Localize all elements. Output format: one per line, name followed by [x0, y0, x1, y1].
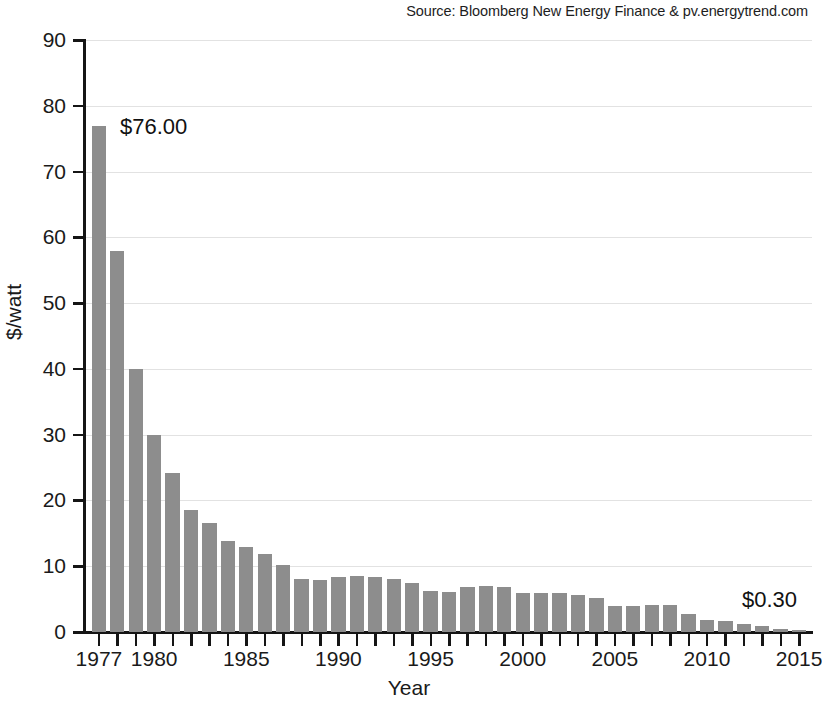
y-axis-tick-label: 0 [6, 621, 66, 642]
x-axis-tick [172, 634, 175, 646]
bar [331, 577, 345, 632]
bar [405, 583, 419, 632]
bar [387, 579, 401, 632]
x-axis-tick [614, 634, 617, 646]
x-axis-tick [319, 634, 322, 646]
x-axis-tick-label: 2015 [776, 648, 822, 669]
bar [552, 593, 566, 632]
bar [626, 606, 640, 632]
x-axis-tick [282, 634, 285, 646]
bar [221, 541, 235, 632]
x-axis-tick [466, 634, 469, 646]
x-axis-tick [688, 634, 691, 646]
y-axis-tick [73, 499, 84, 502]
x-axis-tick-label: 2005 [591, 648, 638, 669]
x-axis-tick-label: 2010 [684, 648, 731, 669]
bar [276, 565, 290, 632]
y-axis-tick [73, 368, 84, 371]
bar [755, 626, 769, 632]
x-axis-tick [761, 634, 764, 646]
y-axis-tick [73, 39, 84, 42]
bar [700, 620, 714, 632]
bar [258, 554, 272, 632]
x-axis-tick [632, 634, 635, 646]
bar [202, 523, 216, 632]
x-axis-tick [706, 634, 709, 646]
x-axis-tick [135, 634, 138, 646]
bar [645, 605, 659, 632]
x-axis-tick [595, 634, 598, 646]
x-axis-tick [227, 634, 230, 646]
first-value-label: $76.00 [120, 116, 187, 138]
bar [165, 473, 179, 632]
y-axis-tick [73, 105, 84, 108]
bar [442, 592, 456, 632]
y-axis-tick [73, 565, 84, 568]
x-axis-tick [98, 634, 101, 646]
x-axis-tick-label: 1990 [315, 648, 362, 669]
y-axis-tick-label: 10 [6, 555, 66, 576]
y-axis-tick-label: 60 [6, 226, 66, 247]
y-axis-tick-label: 20 [6, 489, 66, 510]
x-axis-tick [448, 634, 451, 646]
bar [239, 547, 253, 633]
bar [571, 595, 585, 632]
bar [129, 369, 143, 632]
bar [497, 587, 511, 632]
bar [368, 577, 382, 632]
bar [110, 251, 124, 633]
bar [773, 629, 787, 632]
bars [86, 40, 812, 632]
bar [460, 587, 474, 632]
x-axis-tick [780, 634, 783, 646]
x-axis-tick [411, 634, 414, 646]
x-axis-tick [301, 634, 304, 646]
bar [479, 586, 493, 632]
source-note: Source: Bloomberg New Energy Finance & p… [406, 3, 808, 19]
bar [589, 598, 603, 632]
x-axis-tick [337, 634, 340, 646]
x-axis-tick [190, 634, 193, 646]
bar [534, 593, 548, 632]
x-axis-tick-label: 1995 [407, 648, 454, 669]
x-axis-tick [153, 634, 156, 646]
y-axis-tick-label: 30 [6, 424, 66, 445]
x-axis-tick [540, 634, 543, 646]
y-axis-tick-label: 70 [6, 161, 66, 182]
y-axis-tick [73, 631, 84, 634]
x-axis-tick [374, 634, 377, 646]
x-axis-tick [264, 634, 267, 646]
x-axis-tick [208, 634, 211, 646]
x-axis-tick [356, 634, 359, 646]
bar [792, 630, 806, 632]
x-axis-tick [559, 634, 562, 646]
x-axis-tick-label: 1977 [76, 648, 123, 669]
y-axis-tick-label: 80 [6, 95, 66, 116]
y-axis-title: $/watt [2, 252, 26, 372]
x-axis-tick [651, 634, 654, 646]
x-axis-tick [669, 634, 672, 646]
bar [737, 624, 751, 632]
x-axis-tick-label: 1980 [131, 648, 178, 669]
bar [147, 435, 161, 632]
last-value-label: $0.30 [742, 589, 797, 611]
x-axis-tick [245, 634, 248, 646]
x-axis-tick [430, 634, 433, 646]
y-axis-tick [73, 236, 84, 239]
x-axis-tick [503, 634, 506, 646]
bar [350, 576, 364, 632]
y-axis-tick [73, 434, 84, 437]
x-axis-tick [798, 634, 801, 646]
x-axis-tick [485, 634, 488, 646]
y-axis-tick-label: 90 [6, 29, 66, 50]
bar [516, 593, 530, 632]
x-axis-tick [522, 634, 525, 646]
y-axis-tick [73, 302, 84, 305]
y-axis-tick [73, 171, 84, 174]
x-axis-tick-label: 1985 [223, 648, 270, 669]
x-axis-title: Year [0, 676, 818, 700]
bar [663, 605, 677, 632]
x-axis-tick [743, 634, 746, 646]
bar [608, 606, 622, 632]
